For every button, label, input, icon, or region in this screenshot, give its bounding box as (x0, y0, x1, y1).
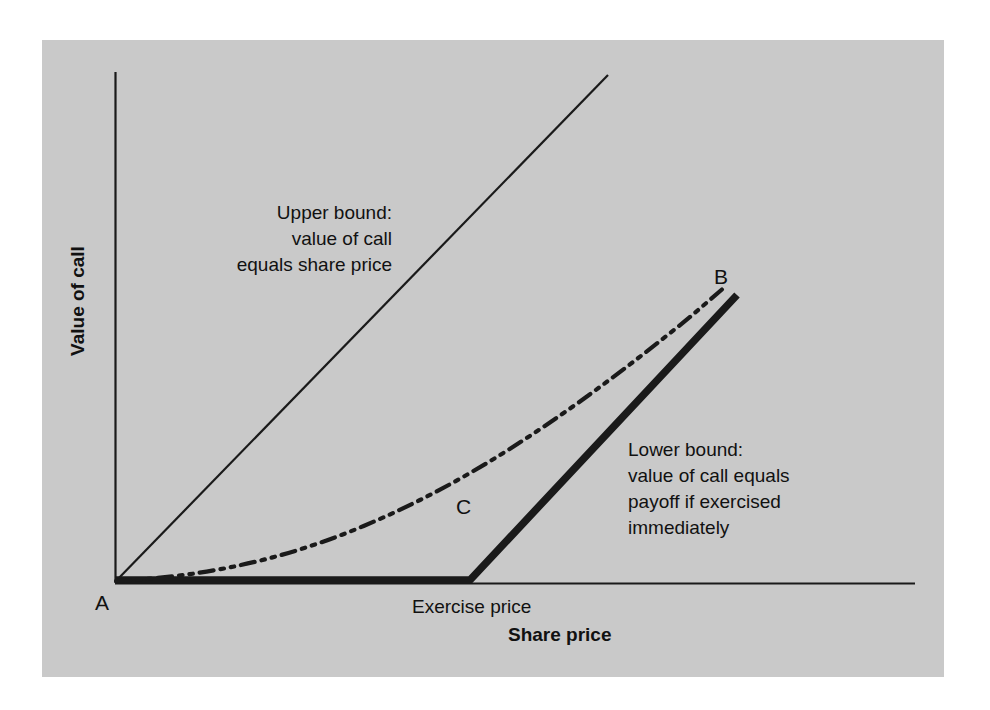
lower-bound-annotation-line-2: value of call equals (628, 463, 888, 489)
y-axis-label: Value of call (67, 221, 89, 381)
upper-bound-line (115, 75, 608, 582)
x-axis-label: Share price (508, 622, 612, 647)
lower-bound-annotation: Lower bound: value of call equals payoff… (628, 437, 888, 541)
lower-bound-annotation-line-1: Lower bound: (628, 437, 888, 463)
upper-bound-annotation: Upper bound: value of call equals share … (160, 200, 392, 278)
point-label-a: A (95, 590, 109, 615)
figure-container: Value of call Upper bound: value of call… (0, 0, 990, 710)
point-label-c: C (456, 494, 471, 519)
point-label-b: B (714, 264, 728, 289)
lower-bound-annotation-line-3: payoff if exercised (628, 489, 888, 515)
x-axis-tick-label-exercise-price: Exercise price (412, 594, 531, 619)
upper-bound-annotation-line-2: value of call (160, 226, 392, 252)
lower-bound-annotation-line-4: immediately (628, 515, 888, 541)
upper-bound-annotation-line-3: equals share price (160, 252, 392, 278)
upper-bound-annotation-line-1: Upper bound: (160, 200, 392, 226)
